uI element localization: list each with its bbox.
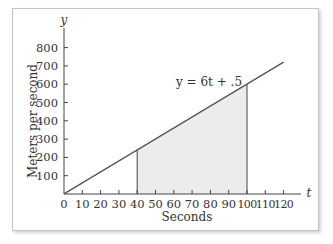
x-axis-variable: t: [307, 186, 312, 200]
x-tick-label: 100: [237, 198, 257, 211]
y-axis-title: Meters per second: [26, 64, 40, 178]
x-axis-title: Seconds: [162, 210, 213, 224]
line-chart: 0102030405060708090100110120100200300400…: [0, 0, 333, 244]
x-tick-label: 60: [166, 197, 181, 211]
x-tick-label: 120: [274, 198, 294, 211]
y-axis-variable: y: [60, 13, 68, 27]
x-tick-label: 0: [60, 197, 67, 211]
x-tick-label: 40: [130, 197, 145, 211]
shaded-area: [137, 84, 247, 194]
x-tick-label: 30: [112, 197, 127, 211]
x-tick-label: 50: [148, 197, 163, 211]
x-tick-label: 80: [203, 197, 218, 211]
equation-label: y = 6t + .5: [175, 75, 242, 89]
x-tick-label: 70: [185, 197, 200, 211]
x-tick-label: 90: [221, 197, 236, 211]
x-tick-label: 10: [75, 197, 90, 211]
y-tick-label: 800: [36, 41, 58, 55]
x-tick-label: 110: [256, 198, 276, 211]
x-tick-label: 20: [93, 197, 108, 211]
